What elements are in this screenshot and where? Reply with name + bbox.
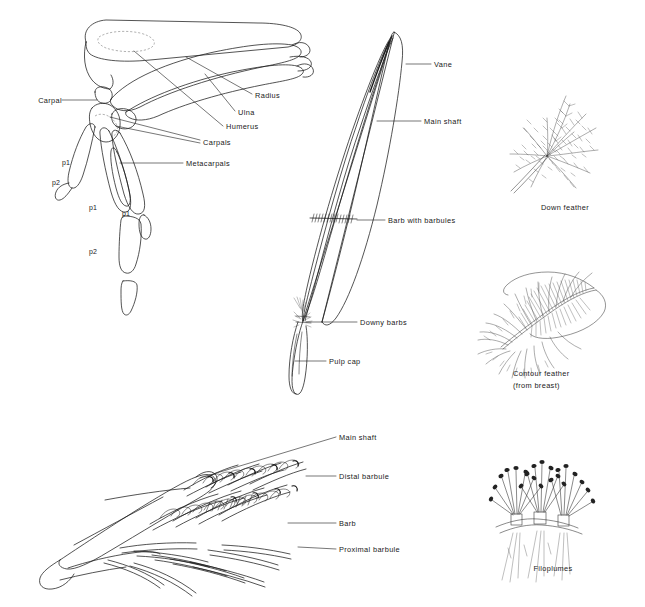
wing-skeleton-drawing <box>55 20 313 315</box>
contour-feather-drawing <box>478 272 606 378</box>
label-digit-p1-alula: p1 <box>62 158 70 167</box>
caption-filoplumes: Filoplumes <box>533 564 572 574</box>
label-digit-p1-minor: p1 <box>122 209 130 218</box>
label-digit-p2-alula: p2 <box>52 178 60 187</box>
label-radius: Radius <box>255 91 280 101</box>
label-proximal-barbule: Proximal barbule <box>339 545 400 555</box>
barb-detail-leaders <box>200 437 336 549</box>
label-main-shaft-feather: Main shaft <box>424 117 462 127</box>
flight-feather-drawing <box>289 32 403 394</box>
label-downy-barbs: Downy barbs <box>360 318 407 328</box>
barb-detail-drawing <box>40 460 306 596</box>
label-barb-with-barbules: Barb with barbules <box>388 216 456 226</box>
down-feather-drawing <box>510 96 598 193</box>
label-distal-barbule: Distal barbule <box>339 472 389 482</box>
flight-feather-leaders <box>295 64 431 361</box>
caption-down-feather: Down feather <box>541 203 589 213</box>
label-carpal: Carpal <box>38 96 62 106</box>
label-barb: Barb <box>339 519 356 529</box>
caption-contour-feather-line2: (from breast) <box>513 381 560 391</box>
label-carpals: Carpals <box>203 138 231 148</box>
label-main-shaft-detail: Main shaft <box>339 433 377 443</box>
figure-canvas: Carpal Radius Ulna Humerus Carpals Metac… <box>0 0 645 607</box>
label-ulna: Ulna <box>238 108 255 118</box>
label-metacarpals: Metacarpals <box>186 159 230 169</box>
label-humerus: Humerus <box>226 122 258 132</box>
label-digit-p1-major: p1 <box>89 203 97 212</box>
label-pulp-cap: Pulp cap <box>329 357 361 367</box>
illustration-artwork <box>0 0 645 607</box>
caption-contour-feather-line1: Contour feather <box>513 369 570 379</box>
label-digit-p2-major: p2 <box>89 247 97 256</box>
label-vane: Vane <box>434 60 452 70</box>
